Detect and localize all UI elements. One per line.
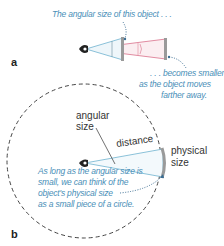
far-object [164,38,167,60]
panel-label-a: a [11,57,17,68]
caption-bottom-line-3: farther away. [161,91,207,100]
panel-b-graphics [7,84,165,238]
caption-b-line-3: object's physical size [38,189,113,198]
caption-b-line-4: as a small piece of a circle. [38,200,134,209]
angular-size-label-line-2: size [76,122,94,132]
eye-icon-a [79,45,88,53]
near-cone [86,38,123,60]
angular-size-label-line-1: angular [76,111,109,121]
caption-b-line-1: As long as the angular size is [38,167,143,176]
caption-top: The angular size of this object . . . [52,10,172,19]
near-object [121,37,124,61]
caption-bottom-line-1: . . . becomes smaller [150,69,224,78]
caption-bottom-line-2: as the object moves [139,80,211,89]
physical-size-label-line-1: physical [171,146,207,156]
panel-label-b: b [11,229,18,240]
diagram-canvas [0,0,224,246]
panel-a-graphics [79,22,186,68]
physical-size-label-line-2: size [171,158,189,168]
caption-b-line-2: small, we can think of the [38,178,128,187]
